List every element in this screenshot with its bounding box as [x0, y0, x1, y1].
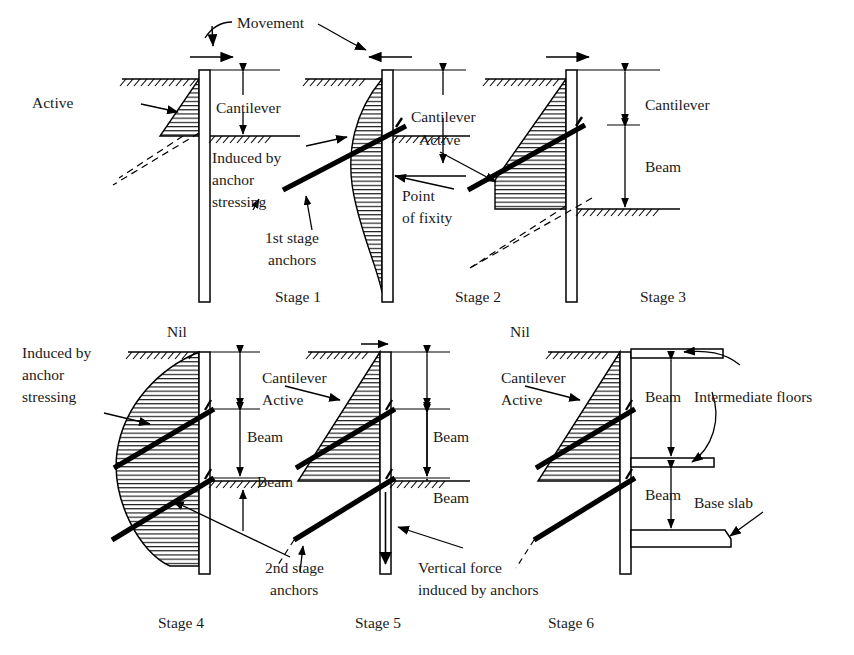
label-active-stage6: Active — [501, 391, 542, 408]
label-cantilever-stage2: Cantilever — [411, 108, 476, 125]
label-anchor-stage2: anchor — [212, 171, 255, 188]
label-beam-stage4-upper: Beam — [247, 428, 283, 445]
label-cantilever-stage6: Cantilever — [501, 369, 566, 386]
label-beam-stage5-upper: Beam — [433, 428, 469, 445]
stage-1-caption: Stage 1 — [275, 288, 321, 305]
label-movement: Movement — [237, 14, 305, 31]
stage-6-caption: Stage 6 — [548, 614, 594, 631]
stage-5-caption: Stage 5 — [355, 614, 401, 631]
label-beam-stage6-upper: Beam — [645, 388, 681, 405]
label-cantilever-stage3: Cantilever — [645, 96, 710, 113]
label-of-fixity: of fixity — [402, 209, 453, 226]
label-induced-by-stage2: Induced by — [212, 149, 282, 166]
label-cantilever-stage5: Cantilever — [262, 369, 327, 386]
label-anchors-stage2: anchors — [268, 251, 316, 268]
label-stressing-stage2: stressing — [212, 193, 267, 210]
label-beam-stage6-lower: Beam — [645, 486, 681, 503]
label-base-slab: Base slab — [694, 494, 753, 511]
label-induced-by-anchors: induced by anchors — [418, 581, 539, 598]
label-beam-stage4-lower: Beam — [257, 473, 293, 490]
label-nil-stage6: Nil — [510, 323, 530, 340]
label-active-stage2: Active — [419, 131, 460, 148]
label-anchor-stage4: anchor — [22, 366, 65, 383]
label-nil-stage4: Nil — [167, 323, 187, 340]
label-stressing-stage4: stressing — [22, 388, 77, 405]
figure-canvas: Movement Active Cantilever Induced by an… — [0, 0, 854, 655]
stage-3-drawing — [440, 70, 680, 302]
label-active-stage5: Active — [262, 391, 303, 408]
label-second-stage: 2nd stage — [265, 559, 324, 576]
diagram-svg: Movement Active Cantilever Induced by an… — [0, 0, 854, 655]
stage-3-caption: Stage 3 — [640, 288, 686, 305]
label-vertical-force: Vertical force — [418, 559, 502, 576]
label-point: Point — [402, 187, 435, 204]
stage-2-caption: Stage 2 — [455, 288, 501, 305]
label-anchors-stage5: anchors — [270, 581, 318, 598]
label-beam-stage3: Beam — [645, 158, 681, 175]
label-induced-by-stage4: Induced by — [22, 344, 92, 361]
label-active-stage1: Active — [32, 94, 73, 111]
label-first-stage: 1st stage — [265, 229, 319, 246]
stage-4-caption: Stage 4 — [158, 614, 204, 631]
label-cantilever-stage1: Cantilever — [216, 99, 281, 116]
label-beam-stage5-lower: Beam — [433, 489, 469, 506]
label-intermediate-floors: Intermediate floors — [694, 388, 812, 405]
